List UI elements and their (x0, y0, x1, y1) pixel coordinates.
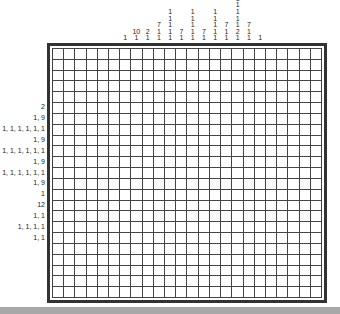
grid-cell[interactable] (187, 244, 198, 255)
grid-cell[interactable] (311, 276, 322, 287)
grid-cell[interactable] (255, 71, 266, 82)
grid-cell[interactable] (131, 179, 142, 190)
grid-cell[interactable] (53, 49, 64, 60)
grid-cell[interactable] (53, 255, 64, 266)
grid-cell[interactable] (165, 103, 176, 114)
grid-cell[interactable] (311, 60, 322, 71)
grid-cell[interactable] (266, 114, 277, 125)
grid-cell[interactable] (143, 233, 154, 244)
grid-cell[interactable] (120, 255, 131, 266)
grid-cell[interactable] (187, 71, 198, 82)
grid-cell[interactable] (232, 244, 243, 255)
grid-cell[interactable] (232, 211, 243, 222)
grid-cell[interactable] (255, 287, 266, 298)
grid-cell[interactable] (210, 92, 221, 103)
grid-cell[interactable] (311, 201, 322, 212)
grid-cell[interactable] (131, 266, 142, 277)
grid-cell[interactable] (154, 60, 165, 71)
grid-cell[interactable] (187, 168, 198, 179)
grid-cell[interactable] (109, 136, 120, 147)
grid-cell[interactable] (165, 222, 176, 233)
grid-cell[interactable] (244, 287, 255, 298)
grid-cell[interactable] (165, 157, 176, 168)
grid-cell[interactable] (98, 222, 109, 233)
grid-cell[interactable] (210, 287, 221, 298)
grid-cell[interactable] (120, 266, 131, 277)
grid-cell[interactable] (53, 233, 64, 244)
grid-cell[interactable] (199, 255, 210, 266)
grid-cell[interactable] (266, 146, 277, 157)
grid-cell[interactable] (199, 211, 210, 222)
grid-cell[interactable] (64, 266, 75, 277)
grid-cell[interactable] (277, 211, 288, 222)
grid-cell[interactable] (87, 60, 98, 71)
grid-cell[interactable] (75, 103, 86, 114)
grid-cell[interactable] (98, 287, 109, 298)
grid-cell[interactable] (98, 233, 109, 244)
grid-cell[interactable] (120, 114, 131, 125)
grid-cell[interactable] (255, 211, 266, 222)
grid-cell[interactable] (53, 103, 64, 114)
grid-cell[interactable] (232, 190, 243, 201)
grid-cell[interactable] (288, 60, 299, 71)
grid-cell[interactable] (232, 276, 243, 287)
grid-cell[interactable] (266, 233, 277, 244)
grid-cell[interactable] (277, 136, 288, 147)
grid-cell[interactable] (53, 157, 64, 168)
grid-cell[interactable] (131, 136, 142, 147)
grid-cell[interactable] (244, 114, 255, 125)
grid-cell[interactable] (98, 71, 109, 82)
grid-cell[interactable] (87, 255, 98, 266)
grid-cell[interactable] (64, 157, 75, 168)
grid-cell[interactable] (288, 146, 299, 157)
grid-cell[interactable] (232, 114, 243, 125)
grid-cell[interactable] (75, 168, 86, 179)
grid-cell[interactable] (210, 49, 221, 60)
grid-cell[interactable] (255, 201, 266, 212)
grid-cell[interactable] (300, 71, 311, 82)
grid-cell[interactable] (120, 276, 131, 287)
grid-cell[interactable] (165, 71, 176, 82)
grid-cell[interactable] (288, 266, 299, 277)
grid-cell[interactable] (221, 125, 232, 136)
grid-cell[interactable] (199, 71, 210, 82)
grid-cell[interactable] (75, 201, 86, 212)
grid-cell[interactable] (221, 276, 232, 287)
grid-cell[interactable] (75, 81, 86, 92)
grid-cell[interactable] (109, 125, 120, 136)
grid-cell[interactable] (288, 190, 299, 201)
grid-cell[interactable] (154, 222, 165, 233)
grid-cell[interactable] (176, 92, 187, 103)
grid-cell[interactable] (199, 287, 210, 298)
grid-cell[interactable] (221, 49, 232, 60)
grid-cell[interactable] (120, 136, 131, 147)
grid-cell[interactable] (165, 201, 176, 212)
grid-cell[interactable] (244, 201, 255, 212)
grid-cell[interactable] (176, 125, 187, 136)
grid-cell[interactable] (277, 233, 288, 244)
grid-cell[interactable] (64, 81, 75, 92)
grid-cell[interactable] (87, 114, 98, 125)
grid-cell[interactable] (300, 157, 311, 168)
grid-cell[interactable] (176, 255, 187, 266)
grid-cell[interactable] (277, 81, 288, 92)
grid-cell[interactable] (300, 255, 311, 266)
grid-cell[interactable] (165, 81, 176, 92)
grid-cell[interactable] (131, 114, 142, 125)
grid-cell[interactable] (176, 211, 187, 222)
grid-cell[interactable] (75, 125, 86, 136)
grid-cell[interactable] (120, 179, 131, 190)
grid-cell[interactable] (154, 92, 165, 103)
grid-cell[interactable] (64, 287, 75, 298)
grid-cell[interactable] (255, 60, 266, 71)
grid-cell[interactable] (87, 92, 98, 103)
grid-cell[interactable] (75, 146, 86, 157)
grid-cell[interactable] (210, 201, 221, 212)
grid-cell[interactable] (199, 92, 210, 103)
grid-cell[interactable] (199, 201, 210, 212)
grid-cell[interactable] (165, 114, 176, 125)
grid-cell[interactable] (255, 222, 266, 233)
grid-cell[interactable] (143, 255, 154, 266)
grid-cell[interactable] (266, 103, 277, 114)
grid-cell[interactable] (210, 168, 221, 179)
